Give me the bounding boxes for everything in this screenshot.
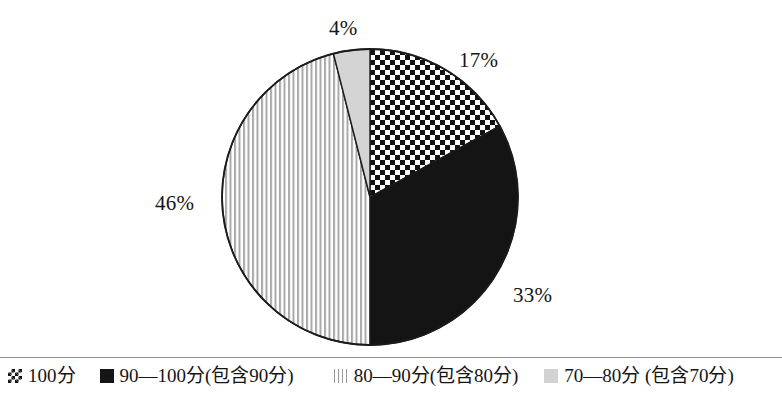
legend-item-90-100fen[interactable]: 90—100分(包含90分) (100, 366, 294, 385)
light-gray-swatch-icon (544, 369, 558, 383)
legend-item-100fen[interactable]: 100分 (8, 366, 76, 385)
pie-plot-area: 4% 17% 33% 46% (0, 0, 782, 352)
pie-value-label-80-90fen: 46% (155, 191, 194, 216)
legend-item-list: 100分 90—100分(包含90分) 80—90分(包含80分) 70—80分… (8, 366, 778, 385)
vertical-stripes-swatch-icon (334, 369, 348, 383)
legend-item-label: 80—90分(包含80分) (354, 366, 519, 385)
pie-chart-figure: 4% 17% 33% 46% 100分 90—100分(包含90分) 80—90… (0, 0, 782, 410)
pie-value-label-100fen: 17% (459, 48, 498, 73)
legend-item-label: 90—100分(包含90分) (120, 366, 294, 385)
checkerboard-swatch-icon (8, 369, 22, 383)
legend-item-label: 70—80分 (包含70分) (564, 366, 733, 385)
legend-item-label: 100分 (28, 366, 76, 385)
chart-legend: 100分 90—100分(包含90分) 80—90分(包含80分) 70—80分… (0, 352, 782, 410)
legend-item-70-80fen[interactable]: 70—80分 (包含70分) (544, 366, 733, 385)
pie-value-label-70-80fen: 4% (329, 16, 357, 41)
legend-divider (0, 357, 782, 358)
pie-graphic (0, 0, 782, 352)
pie-value-label-90-100fen: 33% (513, 283, 552, 308)
legend-item-80-90fen[interactable]: 80—90分(包含80分) (334, 366, 519, 385)
solid-black-swatch-icon (100, 369, 114, 383)
